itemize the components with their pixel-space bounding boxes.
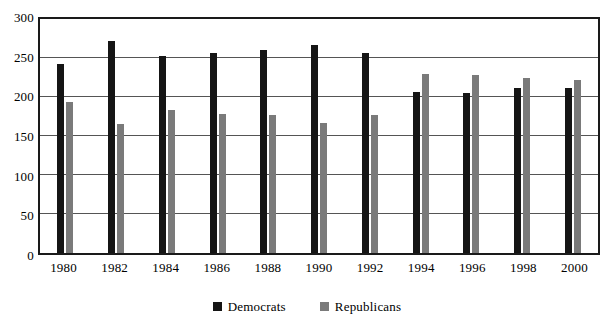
x-axis-tick-label: 1998 <box>498 260 549 275</box>
bar-democrats-1982 <box>108 41 115 253</box>
y-axis-tick-labels: 050100150200250300 <box>0 0 34 324</box>
bar-republicans-2000 <box>574 80 581 253</box>
bar-republicans-1992 <box>371 115 378 253</box>
bar-republicans-1994 <box>422 74 429 253</box>
chart-legend: DemocratsRepublicans <box>0 300 614 313</box>
bar-group-1996 <box>446 19 497 253</box>
bar-republicans-1982 <box>117 124 124 253</box>
x-axis-tick-label: 1996 <box>447 260 498 275</box>
y-axis-tick-label: 200 <box>0 90 34 103</box>
bar-group-1984 <box>141 19 192 253</box>
bar-republicans-1984 <box>168 110 175 253</box>
legend-swatch-republicans <box>320 302 329 311</box>
x-axis-tick-label: 1992 <box>345 260 396 275</box>
bar-democrats-1994 <box>413 92 420 253</box>
y-axis-tick-label: 300 <box>0 11 34 24</box>
y-axis-tick-label: 250 <box>0 50 34 63</box>
legend-item-democrats: Democrats <box>213 300 286 313</box>
y-axis-tick-label: 150 <box>0 130 34 143</box>
y-axis-tick-label: 50 <box>0 209 34 222</box>
x-axis-tick-label: 1990 <box>293 260 344 275</box>
bar-group-2000 <box>547 19 598 253</box>
bar-group-1994 <box>395 19 446 253</box>
bar-democrats-1980 <box>57 64 64 253</box>
bar-chart: 050100150200250300 198019821984198619881… <box>0 0 614 324</box>
bar-republicans-1990 <box>320 123 327 253</box>
bar-group-1986 <box>192 19 243 253</box>
bar-democrats-1990 <box>311 45 318 253</box>
x-axis-tick-label: 1980 <box>38 260 89 275</box>
y-axis-tick-label: 0 <box>0 249 34 262</box>
bar-republicans-1996 <box>472 75 479 253</box>
legend-swatch-democrats <box>213 302 222 311</box>
bar-democrats-1996 <box>463 93 470 253</box>
plot-area <box>38 17 600 255</box>
bar-democrats-1986 <box>210 53 217 253</box>
x-axis-tick-label: 1986 <box>191 260 242 275</box>
bar-republicans-1980 <box>66 102 73 253</box>
x-axis-tick-labels: 1980198219841986198819901992199419961998… <box>38 260 600 275</box>
bar-democrats-1988 <box>260 50 267 253</box>
x-axis-tick-label: 1994 <box>396 260 447 275</box>
x-axis-tick-label: 2000 <box>549 260 600 275</box>
x-axis-tick-label: 1984 <box>140 260 191 275</box>
bar-republicans-1988 <box>269 115 276 253</box>
legend-item-republicans: Republicans <box>320 300 401 313</box>
bar-democrats-1984 <box>159 56 166 253</box>
legend-label-democrats: Democrats <box>228 300 286 313</box>
bar-democrats-2000 <box>565 88 572 253</box>
bar-group-1982 <box>91 19 142 253</box>
bars-layer <box>40 19 598 253</box>
bar-group-1980 <box>40 19 91 253</box>
x-axis-tick-label: 1988 <box>242 260 293 275</box>
bar-group-1988 <box>243 19 294 253</box>
bar-group-1992 <box>344 19 395 253</box>
bar-group-1990 <box>294 19 345 253</box>
bar-democrats-1998 <box>514 88 521 253</box>
bar-republicans-1998 <box>523 78 530 254</box>
x-axis-tick-label: 1982 <box>89 260 140 275</box>
legend-label-republicans: Republicans <box>335 300 401 313</box>
bar-democrats-1992 <box>362 53 369 253</box>
bar-republicans-1986 <box>219 114 226 253</box>
y-axis-tick-label: 100 <box>0 169 34 182</box>
bar-group-1998 <box>497 19 548 253</box>
